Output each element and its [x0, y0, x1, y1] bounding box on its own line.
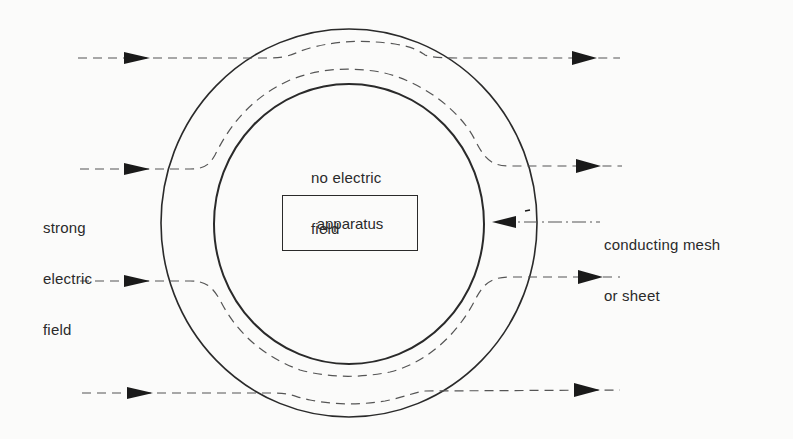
arrowhead-icon: [572, 51, 597, 65]
arrowhead-icon: [574, 383, 600, 397]
arrowhead-icon: [576, 159, 601, 173]
field-line-3: [80, 277, 620, 376]
strong-electric-field-label: strong electric field: [43, 185, 92, 372]
faraday-cage-diagram: apparatus no electric field strong elect…: [0, 0, 793, 439]
label-line: strong: [43, 219, 92, 236]
conducting-mesh-label: conducting mesh or sheet: [604, 202, 720, 338]
label-line: field: [43, 321, 92, 338]
field-line-1: [78, 41, 620, 58]
arrowhead-icon: [124, 52, 150, 64]
arrowhead-icon: [127, 387, 153, 399]
arrowhead-icon: [124, 275, 150, 287]
label-line: or sheet: [604, 287, 720, 304]
shield-pointer-arrow: [492, 210, 600, 228]
label-line: no electric: [311, 169, 382, 186]
label-line: conducting mesh: [604, 236, 720, 253]
label-line: electric: [43, 270, 92, 287]
no-electric-field-label: no electric field: [311, 135, 382, 271]
field-line-4: [82, 390, 620, 404]
arrowhead-icon: [124, 163, 150, 175]
label-line: field: [311, 220, 382, 237]
arrowhead-icon: [578, 270, 603, 284]
